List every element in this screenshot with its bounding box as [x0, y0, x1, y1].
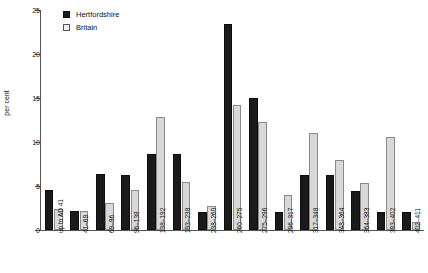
x-axis-tick-label: 138–192 [159, 208, 167, 233]
y-axis-tick-label-wrap: 15 [0, 95, 40, 102]
x-axis-tick-label: 69–96 [108, 215, 116, 233]
x-axis-tick-label: 402–411 [414, 208, 422, 233]
y-axis-tick-label-wrap: 25 [0, 7, 40, 14]
bar [377, 212, 386, 230]
legend-item: Hertfordshire [63, 9, 119, 20]
y-axis-tick-label: 10 [24, 139, 40, 146]
x-axis-tick-label: 238–260 [210, 208, 218, 233]
y-axis-tick-label-wrap: 10 [0, 139, 40, 146]
plot-area [41, 10, 424, 230]
bar [121, 175, 130, 230]
x-axis-tick-label: 275–296 [261, 208, 269, 233]
x-axis-tick-label: 260–275 [236, 208, 244, 233]
y-axis-tick-label-wrap: 5 [0, 183, 40, 190]
chart-legend: HertfordshireBritain [63, 9, 119, 35]
bar [70, 211, 79, 230]
bar [224, 24, 233, 230]
bar [351, 191, 360, 230]
legend-swatch [63, 11, 70, 18]
bar [275, 212, 284, 230]
y-axis-tick-label: 15 [24, 95, 40, 102]
x-axis-tick-label: 296–317 [287, 208, 295, 233]
x-axis-tick-label: 41–69 [82, 215, 90, 233]
bar [402, 212, 411, 230]
y-axis-tick-label: 20 [24, 51, 40, 58]
y-axis-tick-label: 5 [24, 183, 40, 190]
x-axis-tick-label: 317–348 [312, 208, 320, 233]
y-axis-tick-label-wrap: 20 [0, 51, 40, 58]
x-axis-tick-label: 383–402 [389, 208, 397, 233]
bar [198, 212, 207, 230]
bar [147, 154, 156, 230]
y-axis-tick-label: 25 [24, 7, 40, 14]
bar-chart: per cent 0510152025 up to AD 4141–6969–9… [0, 0, 428, 273]
y-axis-tick-label: 0 [24, 227, 40, 234]
bar [45, 190, 54, 230]
x-axis-tick-label: 348–364 [338, 208, 346, 233]
legend-swatch [63, 24, 70, 31]
bar [300, 175, 309, 230]
x-axis-tick-label: 364–383 [363, 208, 371, 233]
legend-label: Britain [76, 23, 97, 32]
bar [326, 175, 335, 230]
bar [249, 98, 258, 230]
x-axis-tick-label: 193–238 [184, 208, 192, 233]
x-axis-tick-label: 96–138 [133, 211, 141, 233]
bar [173, 154, 182, 230]
y-axis-title: per cent [0, 73, 14, 133]
legend-label: Hertfordshire [76, 10, 119, 19]
x-axis-tick-label: up to AD 41 [57, 199, 65, 233]
legend-item: Britain [63, 22, 119, 33]
bar [96, 174, 105, 230]
y-axis-tick-label-wrap: 0 [0, 227, 40, 234]
